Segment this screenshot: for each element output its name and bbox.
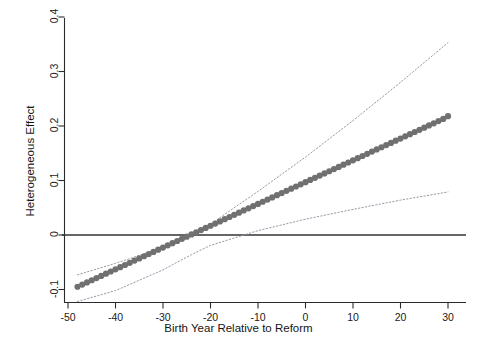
x-axis-title: Birth Year Relative to Reform [0,322,477,334]
chart-figure: -50-40-30-20-100102030 -0.100.10.20.30.4… [0,0,477,345]
confidence-band-lower [78,192,449,302]
y-tick-label: 0.1 [48,160,60,200]
y-tick-label: 0 [48,214,60,254]
y-tick-label: -0.1 [48,269,60,309]
confidence-band-upper [78,43,449,275]
x-axis-ticks [68,303,448,309]
y-tick-label: 0.3 [48,51,60,91]
y-axis-title: Heterogeneous Effect [24,76,36,246]
data-point [445,113,451,119]
y-tick-label: 0.4 [48,0,60,36]
plot-area [0,0,477,345]
y-tick-label: 0.2 [48,105,60,145]
